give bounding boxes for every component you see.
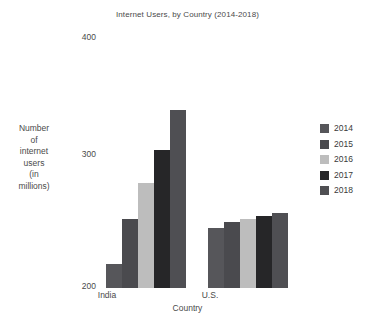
- legend-label: 2014: [334, 124, 353, 133]
- legend-swatch-icon: [320, 124, 329, 133]
- chart-legend: 20142015201620172018: [320, 124, 353, 195]
- bar-us-2017: [256, 216, 272, 288]
- bar-india-2018: [170, 110, 186, 288]
- legend-item-2014[interactable]: 2014: [320, 124, 353, 133]
- bar-us-2016: [240, 219, 256, 288]
- x-axis-tick-label: India: [62, 290, 152, 300]
- bar-us-2015: [224, 222, 240, 288]
- legend-label: 2018: [334, 186, 353, 195]
- bar-us-2014: [208, 228, 224, 288]
- legend-label: 2017: [334, 171, 353, 180]
- y-axis-title: Number of internet users (in millions): [6, 123, 62, 192]
- legend-item-2015[interactable]: 2015: [320, 140, 353, 149]
- legend-label: 2016: [334, 155, 353, 164]
- bar-india-2017: [154, 150, 170, 288]
- legend-item-2017[interactable]: 2017: [320, 171, 353, 180]
- y-axis-tick-label: 400: [62, 32, 96, 42]
- chart-title: Internet Users, by Country (2014-2018): [0, 10, 375, 19]
- bar-india-2014: [106, 264, 122, 288]
- legend-item-2016[interactable]: 2016: [320, 155, 353, 164]
- legend-item-2018[interactable]: 2018: [320, 186, 353, 195]
- y-axis-title-line: users: [6, 158, 62, 170]
- bar-group-india: [106, 34, 186, 288]
- plot-area: [104, 34, 294, 288]
- x-axis-tick-label: U.S.: [165, 290, 255, 300]
- y-axis-title-line: (in: [6, 169, 62, 181]
- legend-swatch-icon: [320, 171, 329, 180]
- y-axis-title-line: millions): [6, 181, 62, 193]
- y-axis-title-line: internet: [6, 146, 62, 158]
- chart-container: Internet Users, by Country (2014-2018) N…: [0, 0, 375, 328]
- y-axis-tick-label: 300: [62, 149, 96, 159]
- bar-us-2018: [272, 213, 288, 288]
- legend-swatch-icon: [320, 140, 329, 149]
- bar-india-2016: [138, 183, 154, 288]
- y-axis-title-line: of: [6, 135, 62, 147]
- bar-india-2015: [122, 219, 138, 288]
- legend-label: 2015: [334, 140, 353, 149]
- y-axis-title-line: Number: [6, 123, 62, 135]
- legend-swatch-icon: [320, 155, 329, 164]
- x-axis-title: Country: [0, 303, 375, 313]
- bar-group-us: [208, 34, 288, 288]
- legend-swatch-icon: [320, 186, 329, 195]
